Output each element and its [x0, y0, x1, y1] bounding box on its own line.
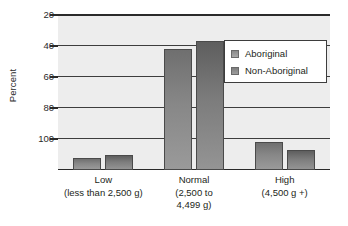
x-axis-group-low-line1: Low — [58, 174, 149, 187]
x-axis-labels: Low (less than 2,500 g) Normal (2,500 to… — [58, 174, 330, 226]
x-axis-group-normal: Normal (2,500 to 4,499 g) — [149, 174, 240, 212]
bar-normal-non-aboriginal — [196, 41, 224, 170]
x-axis-group-low: Low (less than 2,500 g) — [58, 174, 149, 199]
bar-low-aboriginal — [73, 158, 101, 170]
legend-swatch-icon-aboriginal — [231, 50, 239, 58]
bar-high-non-aboriginal — [287, 150, 315, 170]
x-axis-group-high-line1: High — [239, 174, 330, 187]
y-axis-title: Percent — [0, 0, 26, 170]
gridline-20 — [58, 138, 330, 139]
x-axis-group-normal-line1: Normal — [149, 174, 240, 187]
chart-legend: Aboriginal Non-Aboriginal — [224, 40, 327, 83]
legend-item-aboriginal: Aboriginal — [231, 45, 321, 62]
bar-normal-aboriginal — [164, 49, 192, 170]
legend-swatch-icon-non-aboriginal — [231, 67, 239, 75]
x-axis-group-high: High (4,500 g +) — [239, 174, 330, 199]
gridline-40 — [58, 107, 330, 108]
x-axis-group-high-line2: (4,500 g +) — [239, 187, 330, 200]
x-axis-group-normal-line2: (2,500 to — [149, 187, 240, 200]
tick-mark-100 — [50, 14, 58, 16]
bar-low-non-aboriginal — [105, 155, 133, 171]
legend-label-aboriginal: Aboriginal — [245, 49, 287, 59]
legend-label-non-aboriginal: Non-Aboriginal — [245, 66, 308, 76]
y-axis-title-label: Percent — [8, 68, 19, 101]
bar-chart: Percent 100 80 60 40 20 Aboriginal Non-A… — [0, 0, 348, 226]
bar-high-aboriginal — [255, 142, 283, 170]
tick-mark-80 — [50, 45, 58, 47]
plot-area — [58, 15, 330, 170]
tick-mark-60 — [50, 76, 58, 78]
tick-mark-20 — [50, 138, 58, 140]
tick-mark-40 — [50, 107, 58, 109]
x-axis-group-normal-line3: 4,499 g) — [149, 199, 240, 212]
legend-item-non-aboriginal: Non-Aboriginal — [231, 62, 321, 79]
y-axis-ticks: 100 80 60 40 20 — [24, 0, 54, 226]
x-axis-group-low-line2: (less than 2,500 g) — [58, 187, 149, 200]
gridline-100 — [58, 14, 330, 16]
